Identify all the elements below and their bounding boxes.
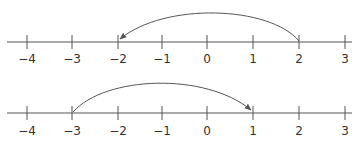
tick-label: 2: [295, 52, 303, 66]
tick-label: −1: [153, 52, 171, 66]
tick-label: 2: [295, 124, 303, 138]
tick-label: −2: [109, 124, 127, 138]
number-line-top: −4 −3 −2 −1 0 1 2 3: [7, 13, 352, 66]
tick-label: 1: [249, 52, 257, 66]
tick-label: −4: [18, 52, 36, 66]
tick-label: 0: [203, 52, 211, 66]
jump-arrow-left-icon: [120, 13, 299, 41]
tick-label: 3: [341, 124, 349, 138]
number-line-diagram: −4 −3 −2 −1 0 1 2 3 −4 −3 −2 −1 0 1 2 3: [0, 0, 361, 141]
tick-label: 1: [249, 124, 257, 138]
number-line-bottom: −4 −3 −2 −1 0 1 2 3: [7, 83, 352, 138]
tick-label: −4: [18, 124, 36, 138]
tick-label: 0: [203, 124, 211, 138]
tick-label: −3: [63, 52, 81, 66]
tick-label: 3: [341, 52, 349, 66]
tick-label: −1: [153, 124, 171, 138]
tick-label: −3: [63, 124, 81, 138]
tick-label: −2: [109, 52, 127, 66]
